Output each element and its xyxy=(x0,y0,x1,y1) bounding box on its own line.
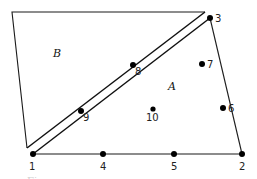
node-dot xyxy=(150,106,155,111)
node-10: 10 xyxy=(146,106,159,123)
node-label: 8 xyxy=(135,66,141,77)
node-2: 2 xyxy=(239,151,245,172)
node-1: 1 xyxy=(29,151,36,172)
node-7: 7 xyxy=(199,59,213,70)
node-label: 1 xyxy=(29,161,35,172)
node-6: 6 xyxy=(220,103,234,114)
node-5: 5 xyxy=(171,151,177,172)
region-b-outline xyxy=(12,12,205,148)
node-dot xyxy=(171,151,177,157)
node-label: 3 xyxy=(215,13,221,24)
region-label-a: A xyxy=(167,80,176,93)
node-8: 8 xyxy=(130,62,141,77)
finite-element-diagram: B A 1 2 3 4 5 6 7 8 9 10 Fig. xyxy=(0,0,257,179)
node-dot xyxy=(239,151,245,157)
edge-3-2 xyxy=(210,18,242,154)
node-dot xyxy=(207,15,213,21)
node-label: 4 xyxy=(100,161,106,172)
node-dot xyxy=(30,151,36,157)
edge-1-3 xyxy=(33,18,210,154)
figure-caption: Fig. xyxy=(27,175,47,179)
node-dot xyxy=(100,151,106,157)
node-label: 2 xyxy=(239,161,245,172)
region-label-b: B xyxy=(52,47,61,60)
node-label: 9 xyxy=(83,112,89,123)
region-b-hypotenuse xyxy=(27,12,205,148)
node-label: 10 xyxy=(146,112,159,123)
node-9: 9 xyxy=(78,108,89,123)
node-dot xyxy=(220,105,226,111)
node-label: 6 xyxy=(228,103,234,114)
node-label: 5 xyxy=(171,161,177,172)
node-3: 3 xyxy=(207,13,221,24)
node-4: 4 xyxy=(100,151,106,172)
node-label: 7 xyxy=(207,59,213,70)
node-dot xyxy=(199,61,205,67)
